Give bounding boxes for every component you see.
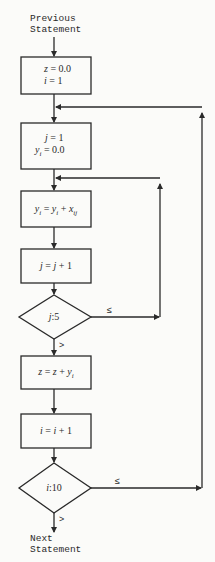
entry-label-line2: Statement (30, 24, 81, 35)
inc-i-text: i = i + 1 (21, 425, 91, 437)
entry-label: Previous Statement (30, 13, 81, 35)
test-i-gt-label: > (59, 514, 64, 524)
test-i-text: i:10 (34, 482, 74, 494)
test-j-le-label: ≤ (107, 305, 112, 315)
exit-label-line2: Statement (30, 544, 81, 555)
init-line-z: z = 0.0 (44, 63, 71, 75)
exit-label-line1: Next (30, 533, 81, 544)
inc-j-text: j = j + 1 (21, 260, 91, 272)
exit-label: Next Statement (30, 533, 81, 555)
test-j-text: j:5 (34, 311, 74, 323)
init-text: z = 0.0 i = 1 (44, 63, 71, 87)
test-i-le-label: ≤ (115, 476, 120, 486)
inner-init-text: j = 1 yi = 0.0 (35, 132, 65, 160)
inner-init-line-y: yi = 0.0 (35, 144, 65, 160)
entry-label-line1: Previous (30, 13, 81, 24)
flowchart-canvas (0, 0, 215, 562)
sum-z-text: z = z + yi (21, 366, 91, 382)
accumulate-text: yi = yi + xij (26, 203, 86, 219)
inner-init-line-j: j = 1 (35, 132, 65, 144)
test-j-gt-label: > (59, 340, 64, 350)
init-line-i: i = 1 (44, 75, 71, 87)
